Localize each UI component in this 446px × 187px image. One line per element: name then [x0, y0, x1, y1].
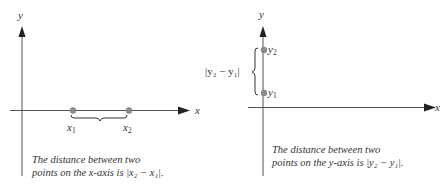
left-caption-prefix: points on the x-axis is: [32, 167, 126, 178]
right-caption-line-2: points on the y-axis is |y₂ − y₁|.: [272, 156, 404, 169]
right-y-axis-label: y: [259, 9, 264, 20]
label-y1: y1: [268, 87, 277, 100]
right-x-axis-label: x: [435, 102, 440, 113]
brace-label: |y₂ − y₁|: [205, 66, 240, 77]
label-y2-sub: 2: [273, 48, 277, 57]
label-y1-sub: 1: [273, 91, 277, 100]
left-caption-line-2: points on the x-axis is |x₂ − x₁|.: [32, 166, 164, 179]
left-y-axis-label: y: [18, 10, 23, 21]
label-x2: x2: [123, 122, 132, 135]
right-caption: The distance between two points on the y…: [272, 143, 404, 169]
y-axis-arrow-icon: [260, 26, 267, 37]
right-caption-prefix: points on the y-axis is: [272, 157, 366, 168]
label-x1: x1: [67, 122, 76, 135]
label-x2-sub: 2: [128, 126, 132, 135]
left-caption-formula: |x₂ − x₁|.: [126, 167, 163, 178]
right-caption-formula: |y₂ − y₁|.: [366, 157, 403, 168]
horizontal-brace: [71, 115, 127, 121]
point-y2: [261, 47, 267, 53]
point-x2: [126, 107, 132, 113]
left-x-axis-label: x: [195, 105, 200, 116]
point-y1: [261, 90, 267, 96]
label-y2: y2: [268, 44, 277, 57]
vertical-brace: [252, 48, 258, 95]
point-x1: [70, 107, 76, 113]
right-caption-line-1: The distance between two: [272, 143, 404, 156]
left-caption-line-1: The distance between two: [32, 153, 164, 166]
left-caption: The distance between two points on the x…: [32, 153, 164, 179]
y-axis-arrow-icon: [19, 26, 26, 37]
label-x1-sub: 1: [72, 126, 76, 135]
x-axis-arrow-icon: [178, 107, 190, 115]
